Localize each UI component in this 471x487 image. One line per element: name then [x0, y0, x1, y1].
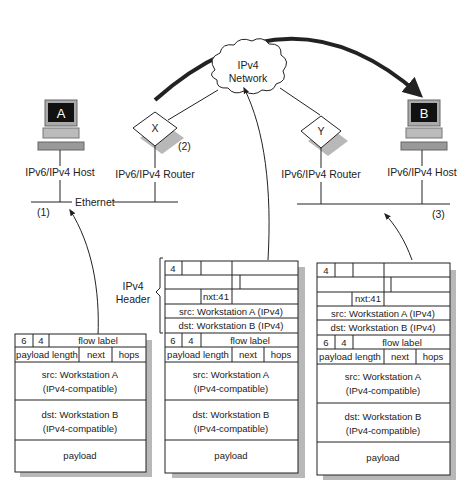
ipv4-nxt-field: nxt:41 — [203, 291, 229, 302]
router-x-label: IPv6/IPv4 Router — [115, 168, 195, 180]
host-b-label: IPv6/IPv4 Host — [387, 166, 457, 178]
host-a-computer-icon: A IPv6/IPv4 Host — [25, 100, 95, 202]
dst-field: dst: Workstation B — [193, 409, 270, 420]
ipv4-src-field: src: Workstation A (IPv4) — [179, 306, 283, 317]
encapsulated-packet-3: 4 nxt:41 src: Workstation A (IPv4) dst: … — [317, 263, 456, 480]
cloud-label-line2: Network — [229, 72, 268, 84]
src-field-note: (IPv4-compatible) — [43, 383, 117, 394]
host-b-letter: B — [420, 106, 429, 121]
tunnel-arc-arrow — [155, 39, 420, 100]
router-x-letter: X — [151, 122, 158, 134]
host-b-computer-icon: B IPv6/IPv4 Host — [387, 100, 457, 204]
priority-field: 4 — [38, 335, 43, 346]
host-a-letter: A — [57, 106, 66, 121]
priority-field: 4 — [188, 335, 193, 346]
ipv4-header-brace — [156, 258, 163, 333]
router-y-label: IPv6/IPv4 Router — [281, 168, 361, 180]
src-field: src: Workstation A — [42, 369, 119, 380]
packet-2-arrow — [244, 88, 269, 260]
step-3-label: (3) — [432, 208, 445, 220]
ipv4-src-field: src: Workstation A (IPv4) — [331, 308, 435, 319]
payload-length-field: payload length — [16, 349, 78, 360]
version-field: 6 — [21, 335, 26, 346]
ipv6-tunneling-diagram: IPv4 Network X (2) IPv6/IPv4 Router Y IP… — [0, 0, 471, 487]
dst-field-note: (IPv4-compatible) — [194, 423, 268, 434]
step-1-label: (1) — [37, 206, 50, 218]
ipv4-dst-field: dst: Workstation B (IPv4) — [331, 322, 436, 333]
router-x: X (2) IPv6/IPv4 Router — [115, 112, 195, 180]
hops-field: hops — [271, 349, 292, 360]
dst-field: dst: Workstation B — [345, 411, 422, 422]
host-a-label: IPv6/IPv4 Host — [25, 166, 95, 178]
payload-field: payload — [63, 450, 96, 461]
ipv4-version-field: 4 — [170, 263, 175, 274]
ethernet-label: Ethernet — [75, 196, 115, 208]
ipv6-packet-1: 6 4 flow label payload length next hops … — [15, 334, 152, 477]
next-field: next — [391, 351, 409, 362]
packet-3-arrow — [385, 214, 412, 260]
ipv4-dst-field: dst: Workstation B (IPv4) — [179, 320, 284, 331]
router-y-letter: Y — [317, 125, 324, 137]
priority-field: 4 — [341, 337, 346, 348]
flow-label-field: flow label — [78, 335, 118, 346]
payload-field: payload — [214, 450, 247, 461]
next-field: next — [87, 349, 105, 360]
hops-field: hops — [119, 349, 140, 360]
version-field: 6 — [170, 335, 175, 346]
dst-field-note: (IPv4-compatible) — [346, 425, 420, 436]
cloud-label-line1: IPv4 — [237, 59, 258, 71]
version-field: 6 — [323, 337, 328, 348]
src-field: src: Workstation A — [345, 371, 422, 382]
payload-length-field: payload length — [167, 349, 229, 360]
packet-1-arrow — [70, 210, 98, 336]
dst-field-note: (IPv4-compatible) — [43, 423, 117, 434]
src-field-note: (IPv4-compatible) — [346, 385, 420, 396]
dst-field: dst: Workstation B — [42, 409, 119, 420]
src-field-note: (IPv4-compatible) — [194, 383, 268, 394]
brace-label-line1: IPv4 — [122, 280, 143, 292]
flow-label-field: flow label — [230, 335, 270, 346]
ipv4-version-field: 4 — [323, 265, 328, 276]
src-field: src: Workstation A — [193, 369, 270, 380]
step-2-label: (2) — [178, 140, 191, 152]
router-y: Y IPv6/IPv4 Router — [281, 116, 361, 180]
payload-field: payload — [366, 452, 399, 463]
hops-field: hops — [423, 351, 444, 362]
flow-label-field: flow label — [382, 337, 422, 348]
ipv4-network-cloud: IPv4 Network — [211, 39, 286, 94]
next-field: next — [239, 349, 257, 360]
payload-length-field: payload length — [319, 351, 381, 362]
brace-label-line2: Header — [116, 293, 151, 305]
encapsulated-packet-2: 4 nxt:41 src: Workstation A (IPv4) dst: … — [165, 261, 305, 478]
ipv4-nxt-field: nxt:41 — [355, 293, 381, 304]
